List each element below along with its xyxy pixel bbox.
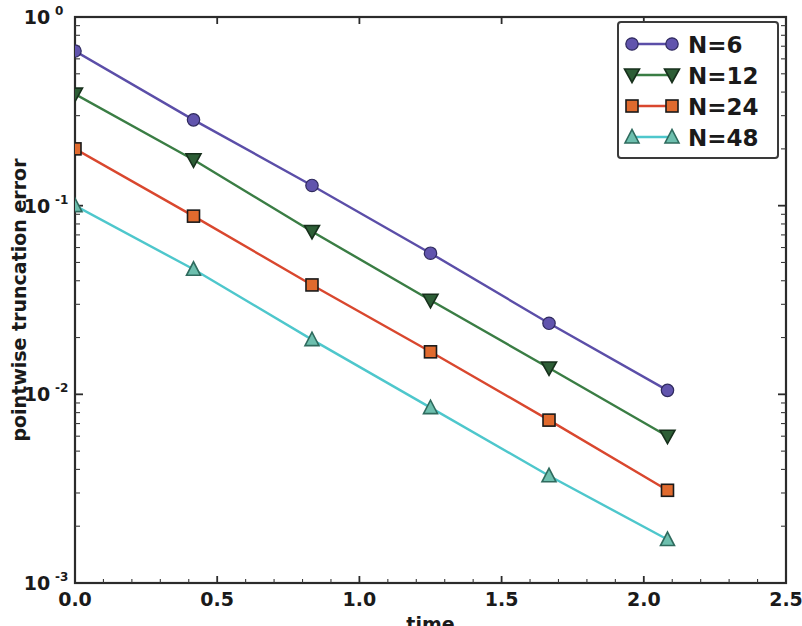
data-point-marker xyxy=(305,332,319,346)
x-tick-label: 1.5 xyxy=(485,588,519,610)
y-tick-label-group: 100 xyxy=(24,4,64,28)
data-point-marker xyxy=(188,210,200,222)
legend: N=6N=12N=24N=48 xyxy=(618,22,778,158)
data-point-marker xyxy=(69,45,81,57)
data-point-marker xyxy=(187,114,199,126)
data-point-marker xyxy=(424,400,438,414)
y-tick-label-exponent: -1 xyxy=(55,193,68,207)
series-line xyxy=(75,94,667,436)
data-point-marker xyxy=(661,484,673,496)
data-point-marker xyxy=(660,430,675,444)
legend-marker xyxy=(626,100,638,112)
legend-label: N=24 xyxy=(688,94,759,120)
data-point-marker xyxy=(186,154,201,168)
chart-svg: 0.00.51.01.52.02.510010-110-210-3timepoi… xyxy=(0,0,802,626)
series-n6 xyxy=(69,45,674,397)
x-tick-label: 0.5 xyxy=(200,588,234,610)
series-line xyxy=(75,149,667,490)
y-tick-label-exponent: 0 xyxy=(55,4,63,18)
y-tick-label-exponent: -2 xyxy=(55,381,68,395)
data-point-marker xyxy=(306,279,318,291)
y-tick-label-group: 10-1 xyxy=(24,193,69,217)
legend-label: N=48 xyxy=(688,125,759,151)
data-point-marker xyxy=(425,346,437,358)
series-line xyxy=(75,51,667,390)
x-tick-label: 1.0 xyxy=(343,588,377,610)
data-point-marker xyxy=(543,317,555,329)
series-n24 xyxy=(69,143,673,496)
series-n48 xyxy=(68,198,674,545)
figure-canvas: 0.00.51.01.52.02.510010-110-210-3timepoi… xyxy=(0,0,802,626)
data-point-marker xyxy=(660,532,674,546)
legend-marker xyxy=(666,100,678,112)
legend-marker xyxy=(666,38,678,50)
legend-marker xyxy=(626,38,638,50)
data-point-marker xyxy=(304,225,319,239)
legend-label: N=6 xyxy=(688,32,743,58)
data-point-marker xyxy=(187,262,201,276)
data-point-marker xyxy=(423,294,438,308)
x-tick-label: 0.0 xyxy=(58,588,92,610)
data-point-marker xyxy=(543,414,555,426)
x-tick-label: 2.5 xyxy=(769,588,802,610)
y-tick-label-exponent: -3 xyxy=(55,570,68,584)
data-point-marker xyxy=(542,362,557,376)
data-point-marker xyxy=(306,179,318,191)
series-n12 xyxy=(68,88,675,444)
series-layer xyxy=(68,45,675,546)
y-axis-title: pointwise truncation error xyxy=(8,158,30,442)
data-point-marker xyxy=(542,468,556,482)
x-axis-title: time xyxy=(406,613,454,626)
y-tick-label-group: 10-2 xyxy=(24,381,69,405)
data-point-marker xyxy=(661,384,673,396)
y-tick-label-mantissa: 10 xyxy=(24,572,50,594)
y-tick-label-mantissa: 10 xyxy=(24,6,50,28)
data-point-marker xyxy=(68,88,83,102)
data-point-marker xyxy=(424,247,436,259)
data-point-marker xyxy=(69,143,81,155)
legend-label: N=12 xyxy=(688,63,759,89)
series-line xyxy=(75,206,667,540)
x-tick-label: 2.0 xyxy=(627,588,661,610)
